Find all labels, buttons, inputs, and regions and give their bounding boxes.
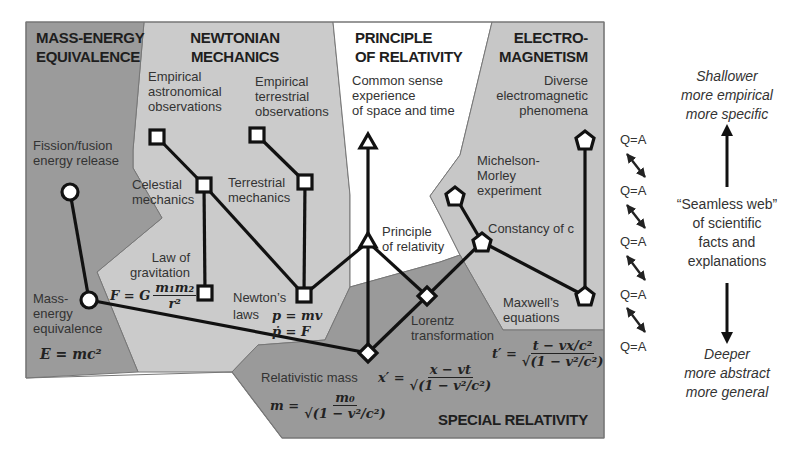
heading-principle: PRINCIPLE OF RELATIVITY [355,28,463,66]
label-line: Maxwell’s [503,295,559,310]
side-middle-text: “Seamless web” of scientific facts and e… [667,195,787,271]
label-line: mechanics [228,190,290,205]
label-line: Michelson- [477,153,541,168]
node-terrestrial-square-icon [298,175,312,189]
heading-mass-energy: MASS-ENERGY EQUIVALENCE [36,28,144,66]
eq-line: ṗ = F [272,324,310,340]
label-line: mechanics [132,192,194,207]
label-rel-mass: Relativistic mass [261,370,358,385]
heading-special-relativity: SPECIAL RELATIVITY [438,410,588,429]
qa-label: Q=A [620,339,646,354]
eq-denominator: r² [166,296,183,311]
qa-label: Q=A [620,132,646,147]
heading-line: MASS-ENERGY [36,28,144,47]
label-line: terrestrial [255,89,329,104]
label-line: experiment [477,183,541,198]
side-line: Deeper [667,345,787,364]
side-line: explanations [667,252,787,271]
equation-newtons-laws: p = mv ṗ = F [272,308,322,340]
qa-label: Q=A [620,234,646,249]
equation-mass-energy: E = mc² [40,346,102,362]
label-line: gravitation [110,265,190,280]
eq-lhs: t′ = [492,346,517,361]
label-line: Fission/fusion [33,138,119,153]
side-line: of scientific [667,214,787,233]
label-terrestrial: Terrestrial mechanics [228,175,290,205]
label-line: Principle [382,224,444,239]
side-line: more abstract [667,364,787,383]
node-newtons-laws-square-icon [297,288,311,302]
eq-numerator: x − vt [428,362,473,378]
equation-lorentz-t: t′ = t − vx/c² √(1 − v²/c²) [492,338,605,369]
label-line: astronomical [148,84,222,99]
label-line: observations [148,99,222,114]
equation-rel-mass: m = m₀ √(1 − v²/c²) [270,390,388,421]
eq-lhs: m = [270,398,299,413]
side-line: more specific [667,105,787,124]
label-line: equivalence [33,321,102,336]
label-line: Law of [110,250,190,265]
label-line: electromagnetic [480,88,588,103]
heading-line: EQUIVALENCE [36,47,144,66]
side-line: Shallower [667,67,787,86]
label-empirical-astro: Empirical astronomical observations [148,69,222,114]
eq-fraction: m₀ √(1 − v²/c²) [302,390,387,421]
label-line: Mass- [33,291,102,306]
label-maxwell: Maxwell’s equations [503,295,559,325]
label-line: Lorentz [411,313,494,328]
label-line: energy [33,306,102,321]
node-gravitation-square-icon [198,286,212,300]
node-celestial-square-icon [197,178,211,192]
label-line: of relativity [382,239,444,254]
eq-fraction: m₁m₂ r² [153,280,196,311]
label-line: experience [352,88,455,103]
qa-label: Q=A [620,183,646,198]
eq-fraction: x − vt √(1 − v²/c²) [408,362,493,393]
label-line: phenomena [480,103,588,118]
label-line: of space and time [352,103,455,118]
label-fission: Fission/fusion energy release [33,138,119,168]
heading-line: PRINCIPLE [355,28,463,47]
label-michelson: Michelson- Morley experiment [477,153,541,198]
label-mass-energy: Mass- energy equivalence [33,291,102,336]
side-bottom-text: Deeper more abstract more general [667,345,787,402]
node-fission-circle-icon [62,184,78,200]
side-line: more general [667,383,787,402]
label-line: observations [255,104,329,119]
eq-numerator: t − vx/c² [531,338,595,354]
node-empirical-terr-square-icon [250,128,264,142]
eq-numerator: m₁m₂ [153,280,196,296]
label-line: Terrestrial [228,175,290,190]
eq-denominator: √(1 − v²/c²) [408,378,493,393]
label-principle-rel: Principle of relativity [382,224,444,254]
heading-line: ELECTRO- [490,28,588,47]
label-empirical-terr: Empirical terrestrial observations [255,74,329,119]
side-top-text: Shallower more empirical more specific [667,67,787,124]
label-celestial: Celestial mechanics [132,177,194,207]
equation-lorentz-x: x′ = x − vt √(1 − v²/c²) [378,362,493,393]
eq-numerator: m₀ [333,390,356,406]
heading-line: NEWTONIAN [180,28,290,47]
label-line: Morley [477,168,541,183]
side-line: “Seamless web” [667,195,787,214]
heading-line: MAGNETISM [490,47,588,66]
label-gravitation: Law of gravitation [110,250,190,280]
eq-fraction: t − vx/c² √(1 − v²/c²) [520,338,605,369]
label-diverse-em: Diverse electromagnetic phenomena [480,73,588,118]
label-line: equations [503,310,559,325]
label-line: Empirical [255,74,329,89]
label-line: Diverse [480,73,588,88]
label-line: energy release [33,153,119,168]
heading-line: MECHANICS [180,47,290,66]
side-line: more empirical [667,86,787,105]
heading-electromagnetism: ELECTRO- MAGNETISM [490,28,588,66]
eq-lhs: F = G [110,288,150,303]
heading-newtonian: NEWTONIAN MECHANICS [180,28,290,66]
label-line: Empirical [148,69,222,84]
qa-label: Q=A [620,287,646,302]
label-constancy: Constancy of c [488,221,574,236]
eq-line: p = mv [272,308,322,324]
eq-denominator: √(1 − v²/c²) [520,354,605,369]
label-common-sense: Common sense experience of space and tim… [352,73,455,118]
label-line: Newton’s [233,290,286,305]
